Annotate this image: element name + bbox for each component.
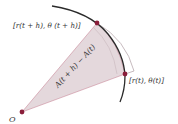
lower-point [123, 72, 128, 77]
polar-area-diagram: [r(t + h), θ (t + h)] [r(t), θ(t)] O A(t… [0, 0, 178, 124]
origin-point [20, 110, 25, 115]
origin-label: O [9, 115, 16, 124]
lower-point-label: [r(t), θ(t)] [129, 76, 164, 85]
upper-point-label: [r(t + h), θ (t + h)] [13, 21, 81, 30]
upper-point [95, 21, 100, 26]
